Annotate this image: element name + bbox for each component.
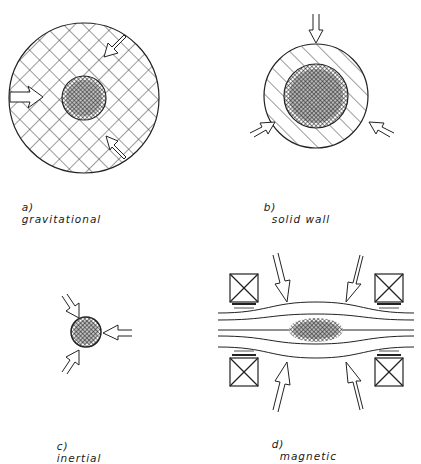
magnet-coil-icon [375, 274, 403, 308]
caption-solid-wall: b) solid wall [255, 189, 330, 225]
magnet-coil-icon [230, 351, 258, 386]
force-arrow-icon [309, 14, 323, 43]
panel-caption: magnetic [280, 450, 337, 462]
force-arrow-icon [346, 255, 363, 302]
magnet-coil-icon [375, 351, 403, 386]
force-arrow-icon [369, 122, 394, 137]
panel-letter: d) [272, 438, 285, 450]
force-arrow-icon [103, 325, 132, 340]
force-arrow-icon [62, 350, 79, 374]
panel-letter: b) [264, 201, 277, 213]
panel-caption: gravitational [22, 213, 102, 225]
force-arrow-icon [346, 362, 363, 410]
panel-gravitational [9, 23, 159, 173]
force-arrow-icon [273, 253, 290, 302]
caption-inertial: c) inertial [48, 428, 101, 464]
magnet-coil-icon [230, 274, 258, 308]
force-arrow-icon [250, 122, 275, 137]
caption-magnetic: d) magnetic [263, 426, 337, 462]
panel-magnetic [218, 253, 414, 412]
panel-letter: a) [22, 201, 35, 213]
panel-caption: inertial [57, 452, 102, 464]
panel-inertial [62, 294, 132, 374]
force-arrow-icon [273, 362, 290, 412]
caption-gravitational: a) gravitational [13, 189, 101, 225]
force-arrow-icon [62, 294, 79, 318]
panel-caption: solid wall [272, 213, 331, 225]
panel-solid-wall [250, 14, 394, 148]
panel-letter: c) [57, 440, 69, 452]
